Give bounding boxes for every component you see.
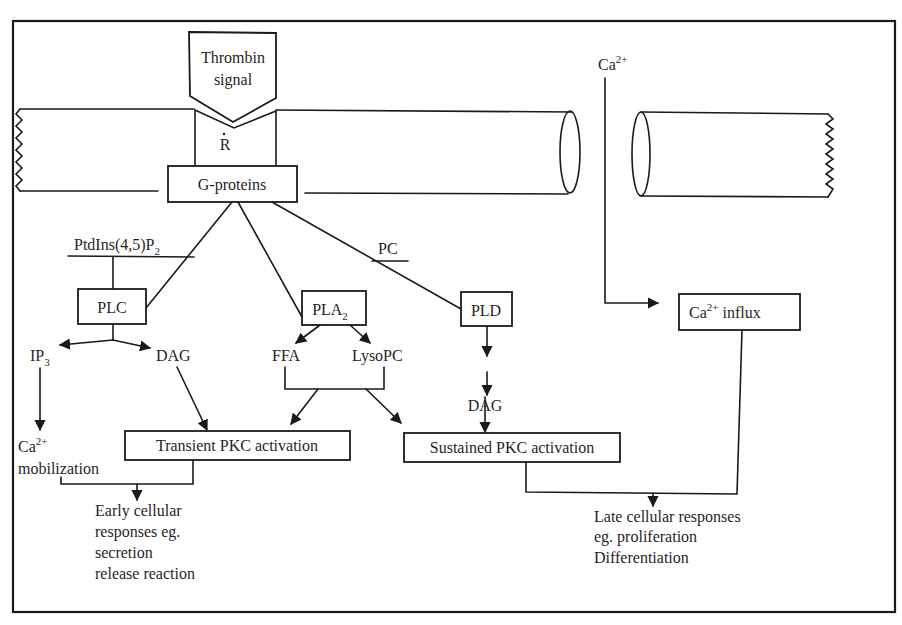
- edge-pla2-lysopc: [350, 325, 370, 343]
- thrombin-signal-line1: Thrombin: [201, 49, 265, 66]
- transient-pkc-node: Transient PKC activation: [125, 431, 350, 460]
- membrane-right: [632, 112, 833, 197]
- membrane-torn-edge-right: [826, 114, 833, 197]
- edge-plc-ip3: [60, 340, 113, 345]
- ptdins-label: PtdIns(4,5)P2: [74, 236, 160, 257]
- membrane-left-end-ellipse: [560, 111, 580, 193]
- edge-pla2-ffa: [296, 325, 320, 343]
- pld-node: PLD: [461, 292, 512, 326]
- transient-pkc-label: Transient PKC activation: [156, 437, 318, 454]
- lysopc-label: LysoPC: [352, 347, 403, 365]
- svg-text:Late cellular responses: Late cellular responses: [594, 508, 741, 526]
- early-responses: Early cellular responses eg. secretion r…: [95, 502, 195, 582]
- ca-mobilization-line2: mobilization: [18, 460, 99, 477]
- svg-text:Early cellular: Early cellular: [95, 502, 182, 520]
- ip3-label: IP3: [30, 347, 50, 368]
- pla2-node: PLA2: [302, 291, 366, 325]
- plc-node: PLC: [78, 289, 146, 324]
- edge-ffa-lysopc-transient-pkc: [291, 389, 318, 424]
- pld-label: PLD: [471, 302, 501, 319]
- late-responses: Late cellular responses eg. proliferatio…: [594, 508, 741, 566]
- thrombin-signal: Thrombin signal: [189, 32, 276, 122]
- svg-text:release reaction: release reaction: [95, 565, 195, 582]
- ffa-label: FFA: [272, 347, 301, 364]
- receptor-label: R: [220, 136, 231, 153]
- svg-text:responses eg.: responses eg.: [95, 523, 180, 541]
- svg-text:eg. proliferation: eg. proliferation: [594, 528, 697, 546]
- edge-dag-transient-pkc: [177, 367, 207, 430]
- membrane-torn-edge-left: [16, 109, 22, 191]
- ca-influx-label: Ca2+ influx: [689, 301, 761, 321]
- edge-plc-dag: [113, 340, 150, 348]
- plc-label: PLC: [97, 299, 126, 316]
- edge-ffa-lysopc-sustained-pkc: [366, 389, 401, 423]
- thrombin-signal-line2: signal: [214, 71, 253, 89]
- ca-external-label: Ca2+: [598, 53, 628, 73]
- ca-mobilization-label: Ca2+: [18, 435, 48, 455]
- svg-text:Differentiation: Differentiation: [594, 549, 689, 566]
- pc-label: PC: [378, 240, 398, 257]
- pc-substrate: PC: [372, 240, 408, 261]
- svg-text:secretion: secretion: [95, 544, 153, 561]
- sustained-pkc-label: Sustained PKC activation: [430, 439, 594, 456]
- membrane-right-start-ellipse: [632, 112, 650, 196]
- ca-influx-node: Ca2+ influx: [679, 294, 800, 330]
- ptdins-substrate: PtdIns(4,5)P2: [68, 236, 194, 289]
- pathway-diagram: Thrombin signal R G-proteins PtdIns(4,5)…: [0, 0, 902, 625]
- dag-plc-label: DAG: [156, 347, 191, 364]
- membrane-left: [16, 109, 580, 194]
- sustained-pkc-node: Sustained PKC activation: [404, 433, 620, 462]
- edge-gprot-pla2: [238, 202, 302, 317]
- g-proteins-node: G-proteins: [168, 166, 297, 202]
- g-proteins-label: G-proteins: [198, 176, 266, 194]
